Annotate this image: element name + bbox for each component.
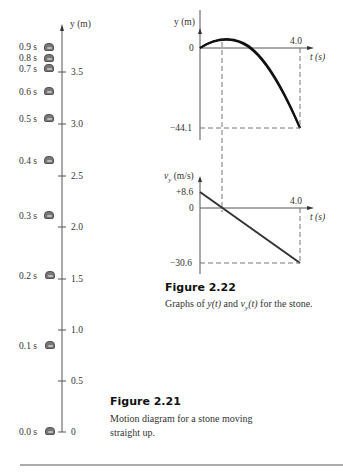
caption-text: for the stone. — [258, 298, 313, 309]
y-graph-t-axis: t (s) — [310, 53, 325, 63]
y-graph-zero: 0 — [189, 44, 194, 54]
time-label-0.5: 0.5 s — [19, 115, 37, 125]
stone-icon — [44, 87, 54, 95]
tick-1.0: 1.0 — [71, 326, 83, 336]
figure-2-22-title: Figure 2.22 — [165, 281, 236, 294]
v-graph-t-end: 4.0 — [290, 197, 302, 207]
tick-3.5: 3.5 — [71, 68, 83, 78]
tick-2.0: 2.0 — [71, 223, 83, 233]
stone-icon — [45, 271, 55, 279]
v-graph-max: +8.6 — [176, 188, 193, 198]
tick-2.5: 2.5 — [71, 172, 83, 182]
figure-2-21-caption: Motion diagram for a stone moving straig… — [110, 412, 260, 440]
stone-icon — [45, 427, 55, 435]
time-label-0.0: 0.0 s — [19, 428, 37, 438]
stone-icon — [44, 64, 54, 72]
figure-2-22-caption: Graphs of y(t) and vy(t) for the stone. — [165, 297, 325, 315]
stone-icon — [45, 341, 55, 349]
stone-icon — [44, 43, 54, 51]
stone-icon — [44, 54, 54, 62]
v-graph-zero: 0 — [189, 204, 194, 214]
figure-2-21-title: Figure 2.21 — [110, 395, 181, 408]
time-label-0.4: 0.4 s — [19, 157, 37, 167]
tick-3.0: 3.0 — [71, 120, 83, 130]
v-graph-axis-label: vy (m/s) — [164, 172, 194, 184]
caption-v-post: (t) — [248, 298, 257, 309]
tick-0.5: 0.5 — [71, 377, 83, 387]
time-label-0.9: 0.9 s — [19, 43, 37, 53]
v-graph-min: −30.6 — [170, 259, 192, 269]
caption-y: y(t) — [207, 298, 221, 309]
tick-0: 0 — [71, 428, 76, 438]
stone-icon — [44, 211, 54, 219]
v-unit: (m/s) — [171, 171, 193, 181]
time-label-0.1: 0.1 s — [19, 342, 37, 352]
time-label-0.7: 0.7 s — [19, 65, 37, 75]
v-graph-t-axis: t (s) — [310, 213, 325, 223]
y-graph-min: −44.1 — [170, 124, 192, 134]
time-label-0.8: 0.8 s — [19, 54, 37, 64]
stone-icon — [44, 156, 54, 164]
caption-text: and — [221, 298, 240, 309]
caption-text: Graphs of — [165, 298, 207, 309]
stone-icon — [44, 114, 54, 122]
motion-axis-label: y (m) — [70, 20, 91, 30]
y-graph-axis-label: y (m) — [174, 18, 195, 28]
time-label-0.6: 0.6 s — [19, 88, 37, 98]
y-graph-t-end: 4.0 — [290, 37, 302, 47]
time-label-0.3: 0.3 s — [19, 212, 37, 222]
time-label-0.2: 0.2 s — [19, 272, 37, 282]
tick-1.5: 1.5 — [71, 275, 83, 285]
